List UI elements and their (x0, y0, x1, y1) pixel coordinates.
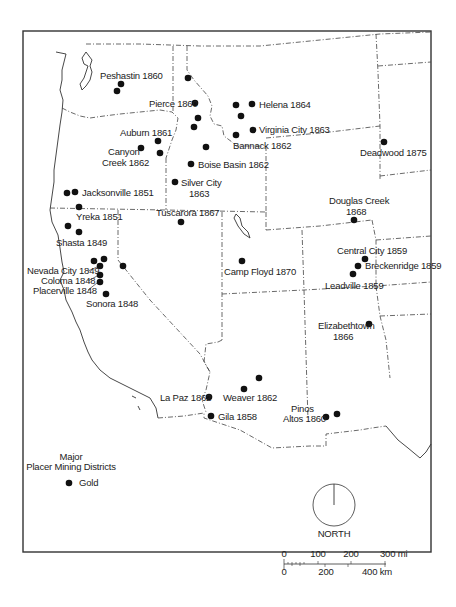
az-nm-border (304, 290, 308, 420)
label-peshastin: Peshastin 1860 (100, 70, 163, 81)
label-pinos-altos-2: Altos 1860 (283, 413, 326, 424)
nd-sd-border (378, 62, 431, 66)
label-tuscarora: Tuscarora 1867 (156, 207, 219, 218)
us-mexico-border (158, 413, 386, 448)
district-marker[interactable] (381, 139, 388, 146)
label-douglas-creek-1: Douglas Creek (329, 195, 390, 206)
district-marker[interactable] (203, 144, 210, 151)
scale-mi-300: 300 mi (380, 548, 407, 559)
mt-dakota-border (376, 34, 380, 180)
district-marker[interactable] (195, 115, 202, 122)
district-marker[interactable] (118, 81, 125, 88)
district-marker[interactable] (76, 204, 83, 211)
label-boise-basin: Boise Basin 1862 (198, 159, 269, 170)
district-marker[interactable] (72, 189, 79, 196)
ut-co-border (302, 230, 304, 290)
scale-mi-0: 0 (281, 548, 286, 559)
district-marker[interactable] (256, 375, 263, 382)
ok-panhandle-border (380, 314, 431, 316)
north-label: NORTH (318, 528, 351, 539)
district-marker[interactable] (103, 291, 110, 298)
legend-gold-symbol (66, 480, 73, 487)
label-elizabethtown-1: Elizabethtown (318, 320, 375, 331)
district-marker[interactable] (120, 263, 127, 270)
district-marker[interactable] (101, 256, 108, 263)
label-sonora: Sonora 1848 (86, 298, 138, 309)
district-marker[interactable] (65, 223, 72, 230)
puget-sound (80, 52, 92, 90)
label-gila: Gila 1858 (218, 411, 257, 422)
district-marker[interactable] (76, 229, 83, 236)
label-silver-city-1: Silver City (181, 177, 222, 188)
district-labels: Peshastin 1860 Pierce 1860 Helena 1864 V… (27, 70, 441, 424)
district-marker[interactable] (350, 271, 357, 278)
label-pierce: Pierce 1860 (149, 98, 198, 109)
district-marker[interactable] (250, 127, 257, 134)
district-marker[interactable] (233, 102, 240, 109)
district-marker[interactable] (157, 150, 164, 157)
district-marker[interactable] (64, 190, 71, 197)
label-leadville: Leadville 1859 (325, 280, 383, 291)
label-helena: Helena 1864 (259, 99, 311, 110)
legend: Major Placer Mining Districts Gold (26, 451, 116, 488)
label-shasta: Shasta 1849 (56, 237, 107, 248)
district-marker[interactable] (208, 413, 215, 420)
label-silver-city-2: 1863 (189, 188, 209, 199)
legend-gold-label: Gold (79, 477, 98, 488)
district-marker[interactable] (188, 161, 195, 168)
scale-km-200: 200 (318, 566, 333, 577)
placer-mining-map: Peshastin 1860 Pierce 1860 Helena 1864 V… (0, 0, 456, 607)
pacific-coastline (50, 52, 158, 418)
district-marker[interactable] (239, 258, 246, 265)
district-marker[interactable] (334, 411, 341, 418)
district-marker[interactable] (238, 113, 245, 120)
label-la-paz: La Paz 1862 (160, 392, 211, 403)
label-auburn: Auburn 1861 (120, 127, 172, 138)
district-marker[interactable] (185, 75, 192, 82)
label-douglas-creek-2: 1868 (346, 206, 366, 217)
district-marker[interactable] (249, 101, 256, 108)
label-deadwood: Deadwood 1875 (360, 147, 427, 158)
scale-mi-200: 200 (343, 548, 358, 559)
label-placerville: Placerville 1848 (33, 285, 97, 296)
label-virginia-city: Virginia City 1863 (259, 124, 330, 135)
ne-ks-border (376, 236, 431, 240)
district-marker[interactable] (191, 124, 198, 131)
district-marker[interactable] (91, 258, 98, 265)
scale-km-0: 0 (281, 566, 286, 577)
label-elizabethtown-2: 1866 (333, 331, 353, 342)
district-marker[interactable] (155, 138, 162, 145)
label-weaver: Weaver 1862 (223, 392, 277, 403)
district-marker[interactable] (355, 263, 362, 270)
label-central-city: Central City 1859 (337, 245, 407, 256)
label-jacksonville: Jacksonville 1851 (82, 187, 154, 198)
legend-title-line2: Placer Mining Districts (26, 461, 116, 472)
label-canyon-creek-2: Creek 1862 (102, 157, 149, 168)
district-marker[interactable] (351, 217, 358, 224)
district-marker[interactable] (172, 179, 179, 186)
label-canyon-creek-1: Canyon (108, 146, 140, 157)
label-yreka: Yreka 1851 (76, 211, 123, 222)
scale-km-400: 400 km (362, 566, 392, 577)
district-marker[interactable] (178, 219, 185, 226)
district-marker[interactable] (233, 132, 240, 139)
ca-nv-border (118, 210, 210, 372)
label-breckenridge: Breckenridge 1859 (365, 260, 441, 271)
us-canada-border (86, 32, 431, 46)
district-marker[interactable] (97, 279, 104, 286)
district-marker[interactable] (114, 88, 121, 95)
sd-ne-border (380, 170, 431, 176)
channel-islands (132, 396, 140, 410)
north-arrow: NORTH (313, 484, 355, 539)
rio-grande (386, 426, 431, 458)
label-camp-floyd: Camp Floyd 1870 (224, 266, 296, 277)
label-bannack: Bannack 1862 (233, 140, 291, 151)
scale-mi-100: 100 (310, 548, 325, 559)
nm-tx-border (376, 286, 390, 378)
great-salt-lake (234, 214, 250, 238)
